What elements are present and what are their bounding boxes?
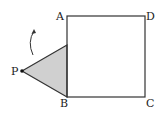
rotation-arrow-icon bbox=[30, 31, 34, 55]
square-abcd bbox=[67, 16, 145, 97]
label-a: A bbox=[55, 10, 65, 23]
label-p: P bbox=[11, 65, 19, 78]
point-p-dot bbox=[20, 69, 24, 73]
arrow-head-icon bbox=[32, 29, 37, 34]
label-d: D bbox=[146, 10, 155, 23]
label-b: B bbox=[60, 97, 68, 110]
geometry-diagram: A D B C P bbox=[0, 0, 166, 113]
shaded-triangle bbox=[22, 45, 67, 97]
label-c: C bbox=[146, 97, 154, 110]
